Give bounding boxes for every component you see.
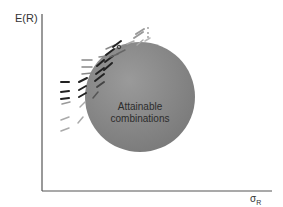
- attainable-region: [85, 42, 195, 152]
- y-axis-label: E(R): [15, 12, 38, 24]
- region-label-line1: Attainable: [100, 101, 180, 113]
- diagram: E(R) σR Attainable combinations: [0, 0, 283, 207]
- region-label-line2: combinations: [100, 113, 180, 125]
- region-label: Attainable combinations: [100, 101, 180, 125]
- x-axis-label: σR: [250, 193, 261, 206]
- x-axis-label-sub: R: [256, 199, 261, 206]
